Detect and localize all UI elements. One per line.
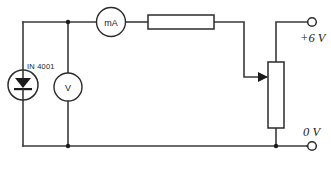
junction-top-voltmeter: [66, 20, 70, 24]
resistor-symbol: [148, 15, 214, 29]
voltmeter-symbol: V: [54, 73, 82, 101]
potentiometer-wiper-arrow: [258, 72, 268, 82]
diode-symbol: [8, 70, 38, 100]
schematic-canvas: V mA: [0, 0, 331, 170]
ground-supply-label: 0 V: [303, 126, 320, 139]
ground-supply-terminal[interactable]: [308, 142, 317, 151]
wire-resistor-to-wiper: [214, 22, 266, 77]
potentiometer-body: [268, 62, 284, 128]
voltmeter-label: V: [65, 83, 71, 93]
positive-supply-terminal[interactable]: [308, 18, 317, 27]
milliammeter-symbol: mA: [97, 8, 126, 37]
potentiometer-symbol: [258, 62, 284, 128]
milliammeter-label: mA: [104, 18, 118, 28]
circuit-diagram: V mA IN 4001 +6 V 0 V: [0, 0, 331, 170]
junction-bottom-voltmeter: [66, 144, 70, 148]
diode-part-label: IN 4001: [27, 63, 55, 71]
junction-dots: [66, 20, 278, 148]
resistor-body: [148, 15, 214, 29]
positive-supply-label: +6 V: [300, 32, 325, 45]
junction-bottom-potentiometer: [274, 144, 278, 148]
